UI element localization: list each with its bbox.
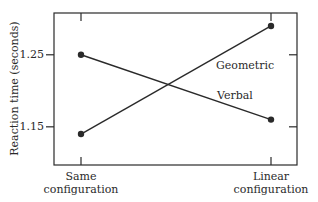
series-line-geometric xyxy=(81,26,271,134)
plot-frame xyxy=(54,13,297,165)
data-point-geometric xyxy=(268,23,274,29)
axis-ticks xyxy=(46,13,297,165)
series-label-verbal: Verbal xyxy=(217,89,253,102)
data-point-geometric xyxy=(78,131,84,137)
x-category-label-line: configuration xyxy=(36,183,126,196)
series-lines xyxy=(81,26,271,134)
series-label-geometric: Geometric xyxy=(216,59,274,72)
y-axis-label: Reaction time (seconds) xyxy=(8,19,21,159)
x-category-label-line: Same xyxy=(36,170,126,183)
x-category-label-line: configuration xyxy=(226,183,316,196)
x-category-label-line: Linear xyxy=(226,170,316,183)
data-point-verbal xyxy=(268,116,274,122)
y-tick-label: 1.25 xyxy=(14,48,44,61)
x-category-label: Linearconfiguration xyxy=(226,170,316,196)
x-category-label: Sameconfiguration xyxy=(36,170,126,196)
y-tick-label: 1.15 xyxy=(14,120,44,133)
data-point-verbal xyxy=(78,52,84,58)
